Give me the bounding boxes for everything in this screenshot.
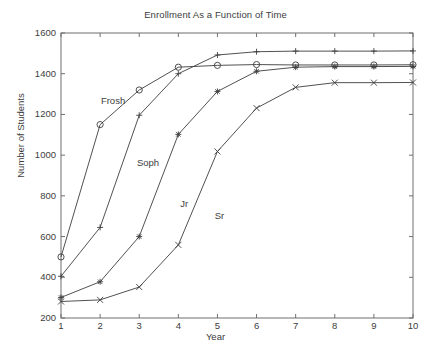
x-axis-label: Year: [0, 331, 431, 342]
plot-canvas: [0, 0, 431, 350]
x-tick-label: 10: [401, 321, 425, 331]
x-tick-label: 9: [362, 321, 386, 331]
x-tick-label: 6: [245, 321, 269, 331]
series-sr: [58, 79, 416, 304]
plot-frame: [61, 33, 413, 318]
series-label-sr: Sr: [215, 210, 225, 221]
y-tick-label: 800: [20, 191, 56, 201]
y-tick-label: 600: [20, 232, 56, 242]
y-axis-label: Number of Students: [15, 81, 26, 191]
chart-title: Enrollment As a Function of Time: [0, 9, 431, 20]
x-tick-label: 2: [88, 321, 112, 331]
x-tick-label: 4: [166, 321, 190, 331]
y-tick-label: 1400: [20, 69, 56, 79]
y-tick-label: 1000: [20, 150, 56, 160]
series-frosh: [58, 61, 416, 260]
x-tick-label: 1: [49, 321, 73, 331]
x-tick-label: 5: [205, 321, 229, 331]
y-tick-label: 1200: [20, 109, 56, 119]
series-label-frosh: Frosh: [101, 95, 125, 106]
x-tick-label: 7: [284, 321, 308, 331]
x-tick-label: 3: [127, 321, 151, 331]
series-label-soph: Soph: [137, 157, 159, 168]
y-tick-label: 400: [20, 272, 56, 282]
y-tick-label: 1600: [20, 28, 56, 38]
chart-figure: Enrollment As a Function of Time Number …: [0, 0, 431, 350]
x-tick-label: 8: [323, 321, 347, 331]
series-label-jr: Jr: [180, 198, 188, 209]
